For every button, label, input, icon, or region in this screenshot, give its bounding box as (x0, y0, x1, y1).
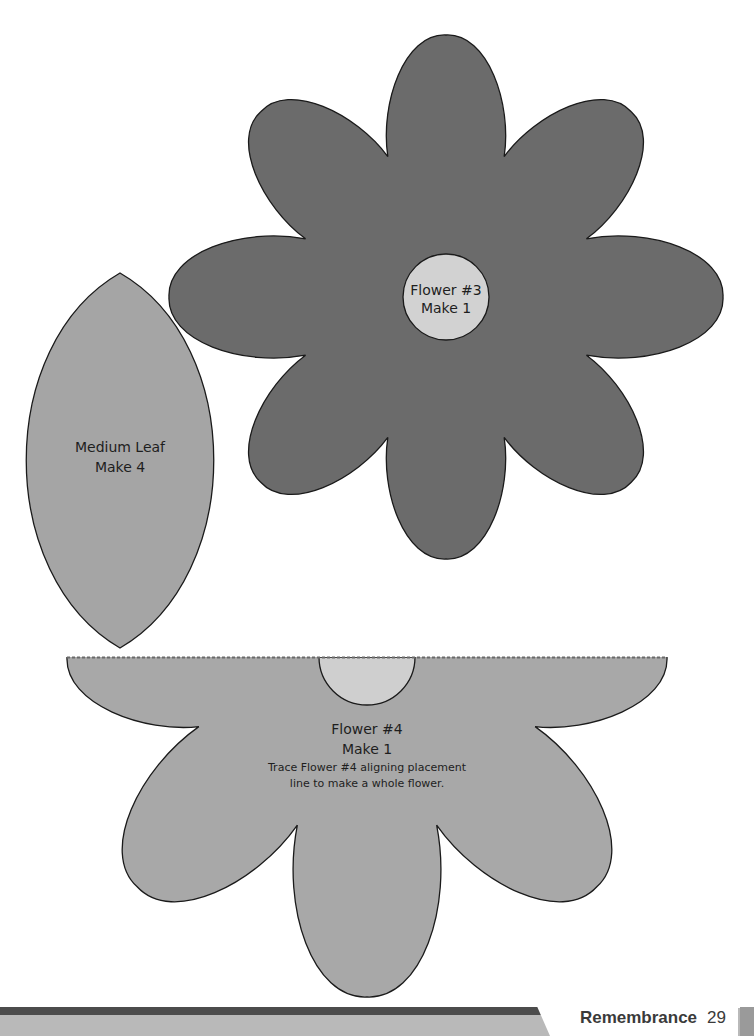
flower-4-instruction-2: line to make a whole flower. (290, 777, 444, 790)
page-number: 29 (707, 1008, 726, 1027)
footer-corner (740, 1007, 754, 1036)
flower-3-label: Flower #3 (410, 282, 481, 298)
footer-title: Remembrance (580, 1008, 697, 1027)
medium-leaf-label: Medium Leaf (75, 439, 166, 455)
flower-3-qty: Make 1 (421, 300, 471, 316)
flower-4-qty: Make 1 (342, 741, 392, 757)
pattern-artwork: Medium Leaf Make 4 Flower #3 Make 1 Flow… (0, 0, 754, 1036)
footer: Remembrance29 (580, 1008, 726, 1028)
flower-4-label: Flower #4 (331, 721, 403, 737)
footer-rule (0, 1007, 545, 1015)
medium-leaf-qty: Make 4 (95, 459, 145, 475)
flower-4-instruction-1: Trace Flower #4 aligning placement (267, 761, 467, 774)
